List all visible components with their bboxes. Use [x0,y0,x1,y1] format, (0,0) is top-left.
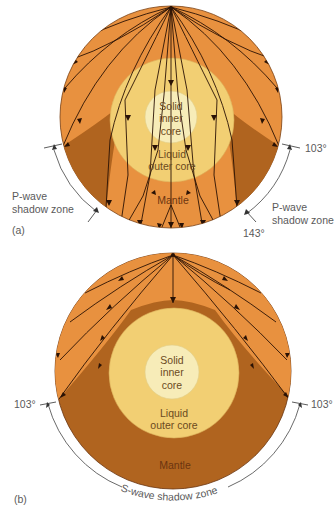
outer-core-label-b-2: outer core [150,419,197,431]
figure-a-p-wave: Solid inner core Liquid outer core Mantl… [12,6,334,260]
seismic-wave-diagram: Solid inner core Liquid outer core Mantl… [0,0,336,521]
angle-103-label-a: 103° [305,142,327,154]
mantle-label-a: Mantle [157,194,189,206]
p-shadow-label-left-1: P-wave [12,190,47,202]
panel-label-a: (a) [12,224,25,236]
figure-b-s-wave: Solid inner core Liquid outer core Mantl… [14,240,333,505]
outer-core-label-a-1: Liquid [158,148,186,160]
panel-label-b: (b) [14,493,27,505]
inner-core-label-a-2: inner [159,112,183,124]
inner-core-label-b-1: Solid [160,354,184,366]
inner-core-label-b-2: inner [160,366,184,378]
inner-core-label-a-3: core [161,125,182,137]
outer-core-label-a-2: outer core [148,160,195,172]
outer-core-label-b-1: Liquid [160,407,188,419]
angle-103-left-b: 103° [14,398,36,410]
inner-core-label-a-1: Solid [159,100,183,112]
inner-core-label-b-3: core [162,379,183,391]
angle-143-label-a: 143° [243,227,265,239]
angle-103-right-b: 103° [311,398,333,410]
p-shadow-label-left-2: shadow zone [12,203,74,215]
mantle-label-b: Mantle [159,459,191,471]
p-shadow-label-right-1: P-wave [272,201,307,213]
p-shadow-label-right-2: shadow zone [272,214,334,226]
